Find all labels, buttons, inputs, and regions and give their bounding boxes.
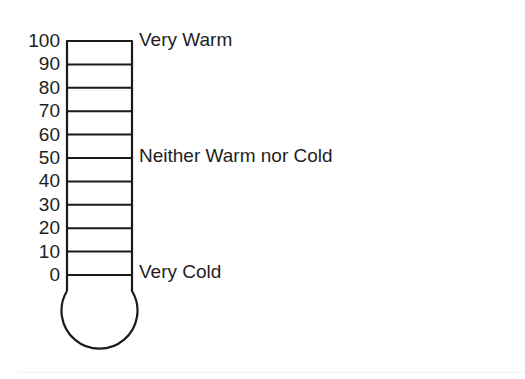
tick-label-0: 0 (0, 265, 60, 285)
tick-label-40: 40 (0, 171, 60, 191)
thermometer-graphic (0, 0, 525, 379)
bottom-divider (18, 372, 525, 373)
anchor-label-very-warm: Very Warm (139, 30, 232, 50)
tick-label-50: 50 (0, 148, 60, 168)
tick-lines (67, 64, 132, 275)
tick-label-60: 60 (0, 125, 60, 145)
tick-label-90: 90 (0, 54, 60, 74)
anchor-label-neutral: Neither Warm nor Cold (139, 146, 333, 166)
anchor-label-very-cold: Very Cold (139, 262, 221, 282)
tick-label-70: 70 (0, 101, 60, 121)
tick-label-10: 10 (0, 242, 60, 262)
tick-label-80: 80 (0, 78, 60, 98)
tick-label-100: 100 (0, 31, 60, 51)
tick-label-20: 20 (0, 218, 60, 238)
tick-label-30: 30 (0, 195, 60, 215)
